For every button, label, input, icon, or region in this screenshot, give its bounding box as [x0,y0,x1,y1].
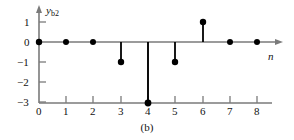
y-tick-label-neg2: −2 [17,77,29,88]
x-tick-label-3: 3 [118,106,124,117]
x-tick-label-1: 1 [63,106,69,117]
x-tick-label-4: 4 [145,106,151,117]
x-axis-zero-line [39,39,283,45]
x-tick-label-0: 0 [36,106,42,117]
stem-plot [0,0,294,140]
x-tick-label-7: 7 [227,106,233,117]
figure-caption: (b) [0,121,294,133]
y-tick-label-neg3: −3 [17,97,29,108]
x-axis-label: n [268,50,274,62]
stem-lines [121,22,203,103]
figure-container: yb2 n 1 0 −1 −2 −3 0 1 2 3 4 5 6 7 8 (b) [0,0,294,140]
x-tick-label-2: 2 [90,106,96,117]
x-tick-label-5: 5 [172,106,178,117]
x-tick-label-8: 8 [254,106,260,117]
y-axis-label: yb2 [46,4,59,16]
x-axis-ticks [66,96,257,103]
y-axis-label-sub: b2 [51,9,59,18]
y-axis [36,5,42,103]
x-tick-label-6: 6 [200,106,206,117]
y-tick-label-neg1: −1 [17,57,29,68]
y-tick-label-0: 0 [24,37,30,48]
y-tick-label-1: 1 [24,17,30,28]
y-axis-ticks [39,22,46,102]
